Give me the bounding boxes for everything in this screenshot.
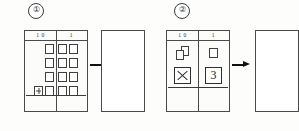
- chart-body-2: 3: [167, 40, 229, 111]
- unit-square-icon: [69, 58, 78, 68]
- ones-row: [56, 56, 87, 70]
- ones-row: [56, 70, 87, 84]
- tens-answer-box-crossed[interactable]: [174, 67, 191, 84]
- circled-one: ①: [28, 3, 44, 19]
- column-header-ones: 1: [56, 31, 87, 40]
- ones-answer-cell: 3: [198, 64, 229, 86]
- unit-square-icon: [45, 58, 54, 68]
- ones-answer-box[interactable]: 3: [205, 67, 222, 84]
- single-square-icon: [209, 48, 218, 58]
- ones-icon-cell: [198, 42, 229, 64]
- ones-column-1: [56, 40, 87, 111]
- tens-answer-cell: [167, 64, 198, 86]
- panel-1: ① 1 0 1: [0, 0, 150, 131]
- column-header-tens: 1 0: [167, 31, 198, 40]
- unit-square-icon: [69, 72, 78, 82]
- unit-square-icon: [58, 72, 67, 82]
- worksheet-sheet: ① 1 0 1: [0, 0, 299, 131]
- tens-column-2: [167, 40, 198, 111]
- tens-column-1: [25, 40, 56, 111]
- panel-2: ② 1 0 1: [150, 0, 299, 131]
- tens-row: [25, 42, 56, 56]
- right-arrow-icon: [232, 61, 250, 68]
- ones-row: [56, 42, 87, 56]
- column-header-ones: 1: [198, 31, 229, 40]
- tens-row: [25, 70, 56, 84]
- unit-square-icon: [45, 72, 54, 82]
- ones-column-2: 3: [198, 40, 229, 111]
- chart-total-rule: [26, 95, 86, 96]
- unit-square-icon: [45, 44, 54, 54]
- place-value-chart-1: 1 0 1: [24, 30, 88, 112]
- answer-rectangle-1[interactable]: [101, 30, 145, 112]
- chart-total-rule: [168, 87, 228, 88]
- unit-square-icon: [58, 58, 67, 68]
- chart-body-1: [25, 40, 87, 111]
- tens-row: [25, 56, 56, 70]
- answer-rectangle-2[interactable]: [255, 30, 299, 112]
- unit-square-icon: [69, 44, 78, 54]
- arrow-head: [243, 61, 250, 67]
- tens-icon-cell: [167, 42, 198, 64]
- stack-square-front: [176, 50, 184, 60]
- circled-two: ②: [174, 3, 190, 19]
- place-value-chart-2: 1 0 1: [166, 30, 230, 112]
- column-header-tens: 1 0: [25, 31, 56, 40]
- unit-square-icon: [58, 44, 67, 54]
- stacked-squares-icon: [176, 46, 189, 60]
